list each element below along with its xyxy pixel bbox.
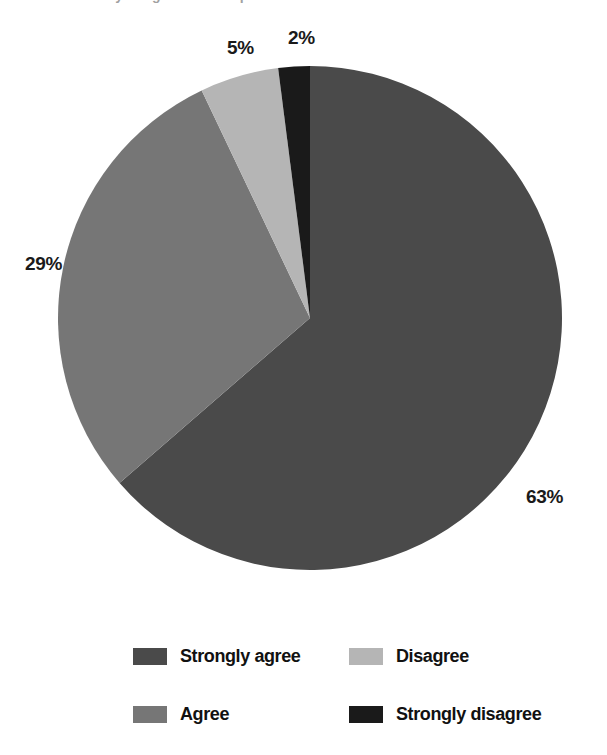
legend-swatch-icon xyxy=(133,706,167,723)
chart-legend: Strongly agree Disagree Agree Strongly d… xyxy=(133,643,493,755)
legend-label: Agree xyxy=(180,705,229,723)
pie-label-disagree: 5% xyxy=(227,37,254,59)
legend-item-strongly-agree[interactable]: Strongly agree xyxy=(133,643,349,669)
pie-chart: 2% 5% 29% 63% xyxy=(0,0,607,620)
pie-slice-group xyxy=(58,66,562,570)
legend-item-strongly-disagree[interactable]: Strongly disagree xyxy=(349,701,565,727)
pie-label-strongly-agree: 63% xyxy=(526,486,563,508)
pie-label-strongly-disagree: 2% xyxy=(288,27,315,49)
legend-item-disagree[interactable]: Disagree xyxy=(349,643,565,669)
legend-swatch-icon xyxy=(349,706,383,723)
legend-label: Disagree xyxy=(396,647,469,665)
pie-label-agree: 29% xyxy=(25,253,62,275)
legend-swatch-icon xyxy=(349,648,383,665)
legend-label: Strongly agree xyxy=(180,647,300,665)
pie-chart-svg xyxy=(0,0,607,620)
legend-swatch-icon xyxy=(133,648,167,665)
legend-label: Strongly disagree xyxy=(396,705,541,723)
legend-item-agree[interactable]: Agree xyxy=(133,701,349,727)
